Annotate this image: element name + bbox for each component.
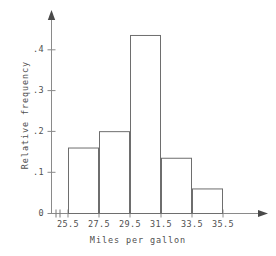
y-axis-arrowhead bbox=[48, 10, 55, 20]
histogram-bar bbox=[69, 148, 99, 213]
x-tick-label-5: 35.5 bbox=[203, 219, 243, 229]
x-axis-title: Miles per gallon bbox=[0, 235, 276, 245]
y-axis-title: Relative frequency bbox=[20, 45, 30, 185]
x-axis-arrowhead bbox=[258, 210, 268, 217]
histogram-bar bbox=[193, 189, 223, 214]
histogram-bar bbox=[131, 35, 161, 213]
histogram-figure: 0 .1 .2 .3 .4 25.5 27.5 29.5 31.5 33.5 3… bbox=[0, 0, 276, 256]
histogram-bars bbox=[69, 35, 223, 213]
y-tick-label-0: 0 bbox=[24, 208, 44, 218]
histogram-bar bbox=[100, 132, 130, 214]
histogram-bar bbox=[162, 158, 192, 213]
